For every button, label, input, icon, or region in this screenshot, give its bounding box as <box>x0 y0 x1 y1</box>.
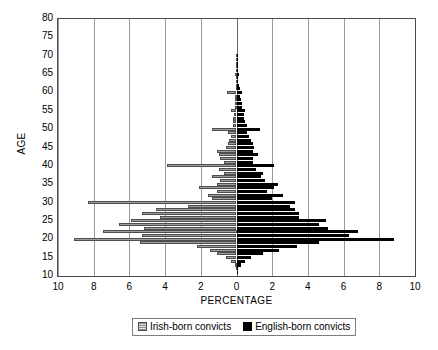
bar-english-age-48 <box>237 135 249 138</box>
y-tick-70: 70 <box>31 50 53 60</box>
bar-english-age-28 <box>237 208 296 211</box>
bar-english-age-24 <box>237 223 319 226</box>
bar-english-age-38 <box>237 172 264 175</box>
bar-irish-age-31 <box>212 197 237 200</box>
bar-english-age-63 <box>237 80 239 83</box>
legend-item-irish: Irish-born convicts <box>138 321 231 332</box>
bar-english-age-56 <box>237 106 242 109</box>
y-tick-45: 45 <box>31 142 53 152</box>
bar-irish-age-24 <box>119 223 237 226</box>
y-axis-title: AGE <box>16 114 27 174</box>
bar-english-age-69 <box>237 58 238 61</box>
bar-irish-age-22 <box>103 230 237 233</box>
bar-english-age-40 <box>237 164 274 167</box>
bar-irish-age-50 <box>212 128 237 131</box>
bar-english-age-16 <box>237 252 264 255</box>
bar-english-age-51 <box>237 124 248 127</box>
bar-irish-age-29 <box>188 205 236 208</box>
bar-english-age-65 <box>237 73 239 76</box>
bar-irish-age-40 <box>167 164 237 167</box>
bar-irish-age-19 <box>140 241 236 244</box>
bar-english-age-27 <box>237 212 299 215</box>
bar-english-age-22 <box>237 230 358 233</box>
bar-irish-age-45 <box>226 146 237 149</box>
bar-english-age-68 <box>237 62 238 65</box>
bar-irish-age-30 <box>88 201 236 204</box>
bar-irish-age-15 <box>226 256 237 259</box>
bar-english-age-36 <box>237 179 266 182</box>
bar-english-age-49 <box>237 131 248 134</box>
bar-english-age-15 <box>237 256 251 259</box>
bar-irish-age-17 <box>210 249 237 252</box>
x-tick-9: 8 <box>364 281 394 292</box>
bar-irish-age-41 <box>224 161 236 164</box>
legend-label-irish: Irish-born convicts <box>150 321 231 332</box>
chart-legend: Irish-born convicts English-born convict… <box>132 318 356 336</box>
legend-label-english: English-born convicts <box>255 321 350 332</box>
bar-english-age-66 <box>237 69 238 72</box>
bar-irish-age-25 <box>131 219 236 222</box>
bar-english-age-50 <box>237 128 260 131</box>
bar-english-age-32 <box>237 194 283 197</box>
x-tick-6: 2 <box>257 281 287 292</box>
plot-area <box>57 18 416 277</box>
bar-english-age-29 <box>237 205 291 208</box>
x-axis-title: PERCENTAGE <box>57 295 416 306</box>
x-tick-8: 6 <box>329 281 359 292</box>
bar-english-age-21 <box>237 234 349 237</box>
bar-english-age-13 <box>237 263 241 266</box>
bar-irish-age-35 <box>217 183 237 186</box>
x-tick-1: 8 <box>79 281 109 292</box>
y-tick-80: 80 <box>31 13 53 23</box>
bar-english-age-53 <box>237 117 244 120</box>
english-swatch-icon <box>243 322 252 331</box>
bar-english-age-67 <box>237 65 238 68</box>
bar-english-age-18 <box>237 245 298 248</box>
y-tick-55: 55 <box>31 105 53 115</box>
irish-swatch-icon <box>138 322 147 331</box>
bar-english-age-31 <box>237 197 273 200</box>
bar-irish-age-60 <box>227 91 237 94</box>
bar-irish-age-34 <box>199 186 236 189</box>
bar-english-age-45 <box>237 146 255 149</box>
bar-english-age-47 <box>237 139 251 142</box>
bar-english-age-44 <box>237 150 253 153</box>
bar-english-age-20 <box>237 238 394 241</box>
bar-english-age-59 <box>237 95 241 98</box>
bar-english-age-64 <box>237 76 239 79</box>
bar-irish-age-42 <box>220 157 236 160</box>
bar-irish-age-27 <box>142 212 237 215</box>
y-tick-20: 20 <box>31 233 53 243</box>
y-tick-60: 60 <box>31 86 53 96</box>
y-tick-40: 40 <box>31 160 53 170</box>
bar-irish-age-18 <box>197 245 236 248</box>
bar-english-age-14 <box>237 260 246 263</box>
y-tick-65: 65 <box>31 68 53 78</box>
bar-english-age-30 <box>237 201 296 204</box>
bar-english-age-60 <box>237 91 242 94</box>
bar-irish-age-46 <box>228 142 237 145</box>
bar-english-age-46 <box>237 142 253 145</box>
bar-english-age-52 <box>237 120 246 123</box>
bar-english-age-11 <box>237 271 238 274</box>
x-tick-3: 4 <box>150 281 180 292</box>
bar-irish-age-36 <box>220 179 236 182</box>
bar-irish-age-16 <box>217 252 237 255</box>
bar-english-age-61 <box>237 87 241 90</box>
y-tick-25: 25 <box>31 215 53 225</box>
bar-english-age-54 <box>237 113 244 116</box>
bar-english-age-55 <box>237 109 246 112</box>
bar-english-age-35 <box>237 183 278 186</box>
bar-english-age-25 <box>237 219 326 222</box>
bar-english-age-12 <box>237 267 239 270</box>
y-tick-10: 10 <box>31 270 53 280</box>
x-tick-5: 0 <box>222 281 252 292</box>
bar-english-age-39 <box>237 168 257 171</box>
y-axis-tick-labels: 101520253035404550556065707580 <box>28 18 53 277</box>
x-tick-2: 6 <box>114 281 144 292</box>
x-tick-0: 10 <box>43 281 73 292</box>
bar-irish-age-49 <box>228 131 237 134</box>
y-tick-30: 30 <box>31 197 53 207</box>
bar-english-age-19 <box>237 241 319 244</box>
y-tick-15: 15 <box>31 252 53 262</box>
